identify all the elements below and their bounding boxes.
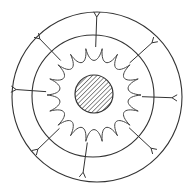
- y-branch: [79, 143, 87, 178]
- diagram-canvas: Cell cross-section with nucleus, wavy me…: [0, 0, 190, 196]
- y-branch: [94, 12, 100, 47]
- y-branch: [32, 128, 59, 155]
- y-branch: [11, 86, 46, 92]
- y-branch: [130, 37, 158, 63]
- y-branch: [142, 95, 177, 101]
- hatched-nucleus: [75, 75, 113, 113]
- cell-diagram: [0, 0, 190, 196]
